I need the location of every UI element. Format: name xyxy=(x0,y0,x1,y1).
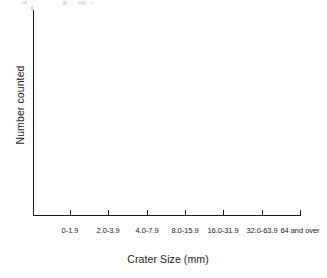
x-axis-tick xyxy=(223,210,224,216)
y-axis-line xyxy=(33,10,34,216)
x-axis-tick xyxy=(262,210,263,216)
x-axis-tick-label: 4.0-7.9 xyxy=(136,226,159,235)
x-axis-tick-label: 64 and over xyxy=(280,226,319,235)
x-axis-tick xyxy=(147,210,148,216)
x-axis-tick-label: 16.0-31.9 xyxy=(207,226,238,235)
x-axis-tick-label: 8.0-15.9 xyxy=(171,226,198,235)
x-axis-tick-label: 32.0-63.9 xyxy=(246,226,277,235)
x-axis-tick-label: 2.0-3.9 xyxy=(97,226,120,235)
x-axis-tick xyxy=(300,210,301,216)
y-axis-title: Number counted xyxy=(14,65,26,144)
x-axis-tick xyxy=(185,210,186,216)
x-axis-tick xyxy=(108,210,109,216)
x-axis-title: Crater Size (mm) xyxy=(127,253,209,265)
x-axis-tick xyxy=(70,210,71,216)
x-axis-tick-label: 0-1.9 xyxy=(62,226,79,235)
crater-size-chart: 0-1.9 2.0-3.9 4.0-7.9 8.0-15.9 16.0-31.9… xyxy=(0,0,327,278)
x-axis-line xyxy=(33,215,301,216)
scan-artifact xyxy=(0,0,150,9)
